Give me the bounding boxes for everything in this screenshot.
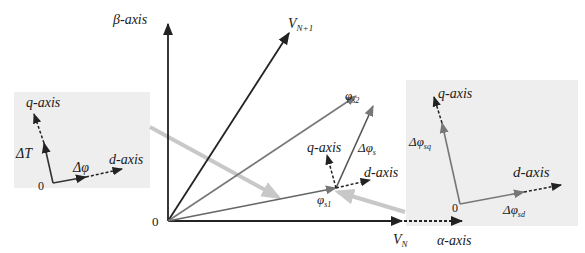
origin-label: 0	[152, 214, 159, 229]
delta-phi-label: Δφ	[72, 160, 89, 175]
vector-diagram: β-axis α-axis VN 0 VN+1 φs2 φs1 Δφs q-ax…	[0, 0, 585, 253]
left-highlight-arrow	[150, 127, 278, 197]
local-q-axis-label: q-axis	[307, 140, 342, 155]
phi-s2-label: φs2	[345, 88, 359, 105]
right-inset-panel	[406, 80, 578, 226]
alpha-axis-label: α-axis	[437, 233, 472, 248]
left-d-axis-label: d-axis	[109, 152, 144, 167]
phi-s1-label: φs1	[317, 192, 331, 209]
vn-label: VN	[393, 232, 409, 249]
vn1-label: VN+1	[288, 16, 313, 33]
right-d-axis-label: d-axis	[513, 164, 550, 180]
beta-axis-label: β-axis	[112, 12, 148, 27]
local-d-axis	[336, 180, 370, 188]
local-q-axis	[327, 155, 336, 188]
left-origin-label: 0	[38, 179, 44, 193]
local-d-axis-label: d-axis	[364, 165, 399, 180]
right-origin-label: 0	[452, 201, 458, 215]
right-q-axis-label: q-axis	[438, 86, 473, 101]
right-highlight-arrow	[338, 192, 405, 212]
delta-phi-s-label: Δφs	[357, 140, 376, 157]
left-q-axis-label: q-axis	[26, 95, 61, 110]
delta-t-label: ΔT	[15, 146, 33, 161]
